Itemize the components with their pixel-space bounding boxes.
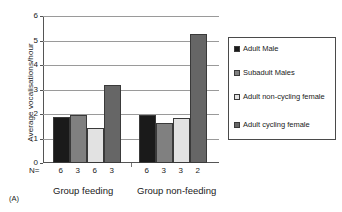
y-tick-label-3: 3 (34, 86, 38, 94)
legend: Adult MaleSubadult MalesAdult non-cyclin… (228, 37, 336, 140)
n-value: 3 (179, 165, 183, 177)
legend-swatch-icon (234, 122, 240, 128)
legend-label: Subadult Males (243, 68, 295, 77)
n-value: 6 (145, 165, 149, 177)
bar (87, 128, 104, 163)
n-value: 3 (110, 165, 114, 177)
legend-swatch-icon (234, 94, 240, 100)
y-tick-5 (40, 41, 43, 42)
y-tick-3 (40, 90, 43, 91)
y-tick-label-4: 4 (34, 61, 38, 69)
legend-label: Adult non-cycling female (243, 92, 325, 101)
n-value: 6 (93, 165, 97, 177)
n-values-row: 63636332 (0, 165, 225, 177)
bar (173, 118, 190, 163)
x-axis-category-group-feeding: Group feeding (53, 185, 113, 197)
n-value: 2 (196, 165, 200, 177)
y-tick-label-2: 2 (34, 110, 38, 118)
y-tick-label-1: 1 (34, 135, 38, 143)
legend-item[interactable]: Adult Male (234, 44, 334, 53)
x-axis-category-group-non-feeding: Group non-feeding (137, 185, 216, 197)
n-value: 3 (76, 165, 80, 177)
y-tick-label-6: 6 (34, 12, 38, 20)
bar (104, 85, 121, 163)
legend-swatch-icon (234, 46, 240, 52)
legend-item[interactable]: Adult cycling female (234, 120, 334, 129)
y-tick-0 (40, 163, 43, 164)
y-tick-2 (40, 114, 43, 115)
legend-item[interactable]: Subadult Males (234, 68, 334, 77)
panel-caption: (A) (9, 194, 19, 203)
y-tick-4 (40, 65, 43, 66)
bar (53, 117, 70, 163)
plot-area: 0123456 (43, 16, 219, 163)
bar (70, 115, 87, 164)
figure-panel-a: Average vocalisations/hour 0123456 N= 63… (0, 0, 342, 212)
bar (190, 34, 207, 163)
bar (156, 123, 173, 163)
legend-item[interactable]: Adult non-cycling female (234, 92, 334, 101)
legend-label: Adult Male (243, 44, 278, 53)
legend-label: Adult cycling female (243, 120, 310, 129)
y-tick-label-5: 5 (34, 37, 38, 45)
n-value: 6 (59, 165, 63, 177)
y-tick-6 (40, 16, 43, 17)
gridline-6 (43, 16, 219, 17)
bar (139, 115, 156, 163)
y-tick-1 (40, 139, 43, 140)
legend-swatch-icon (234, 70, 240, 76)
n-value: 3 (162, 165, 166, 177)
